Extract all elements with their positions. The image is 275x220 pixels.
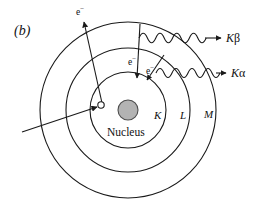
x-ray-emission-diagram: (b) e− e− e− K L M Nucleus Kβ Kα: [0, 0, 275, 220]
shell-label-m: M: [204, 109, 213, 120]
transition-m-electron-charge: −: [132, 55, 136, 63]
shell-label-l: L: [180, 110, 186, 121]
k-beta-greek-symbol: β: [234, 31, 240, 45]
k-alpha-greek-symbol: α: [239, 66, 245, 80]
k-beta-k-symbol: K: [226, 31, 234, 45]
emission-label-k-alpha: Kα: [231, 67, 245, 79]
k-alpha-k-symbol: K: [231, 66, 239, 80]
k-alpha-wave: [156, 69, 220, 78]
ejected-electron-label: e−: [76, 8, 84, 18]
nucleus-label: Nucleus: [107, 127, 145, 139]
electron-transition-l-to-k-label: e−: [146, 67, 154, 77]
electron-transition-m-to-k-arrow: [137, 24, 140, 78]
nucleus-circle: [118, 100, 138, 120]
transition-l-electron-charge: −: [150, 64, 154, 72]
ejected-electron-arrow: [84, 22, 102, 103]
emission-label-k-beta: Kβ: [226, 32, 240, 44]
incident-ray-arrow: [22, 107, 97, 132]
panel-label: (b): [14, 24, 30, 38]
ejected-electron-charge: −: [80, 5, 84, 13]
electron-transition-m-to-k-label: e−: [128, 58, 136, 68]
shell-label-k: K: [154, 110, 161, 121]
k-shell-vacancy: [98, 102, 104, 108]
